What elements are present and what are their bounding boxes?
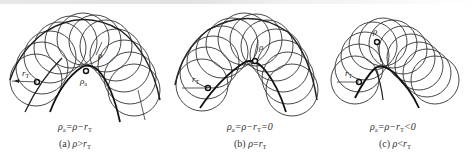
panel-c: rT ρ ρa=ρ−rT<0 (c) ρ<rT bbox=[315, 0, 474, 163]
formula-b: ρa=ρ−rT=0 bbox=[227, 121, 273, 133]
caption-b: (b) ρ=rT bbox=[234, 138, 267, 150]
panel-b: rT ρ ρa=ρ−rT=0 (b) ρ=rT bbox=[160, 0, 315, 163]
tool-radius-label-c: rT bbox=[345, 68, 352, 79]
rho-label-a: ρ bbox=[98, 50, 102, 60]
rho-label-c: ρ bbox=[373, 26, 377, 36]
formula-c: ρa=ρ−rT<0 bbox=[370, 121, 416, 133]
panel-a: rT ρ ρa ρa=ρ−rT (a) ρ>rT bbox=[0, 0, 160, 163]
tool-radius-label-a: rT bbox=[22, 68, 29, 79]
caption-c: (c) ρ<rT bbox=[379, 138, 411, 150]
rho-label-b: ρ bbox=[259, 42, 263, 52]
formula-a: ρa=ρ−rT bbox=[58, 121, 92, 133]
caption-a: (a) ρ>rT bbox=[59, 138, 91, 150]
rho-a-label-a: ρa bbox=[80, 76, 87, 87]
tool-radius-label-b: rT bbox=[192, 74, 199, 85]
